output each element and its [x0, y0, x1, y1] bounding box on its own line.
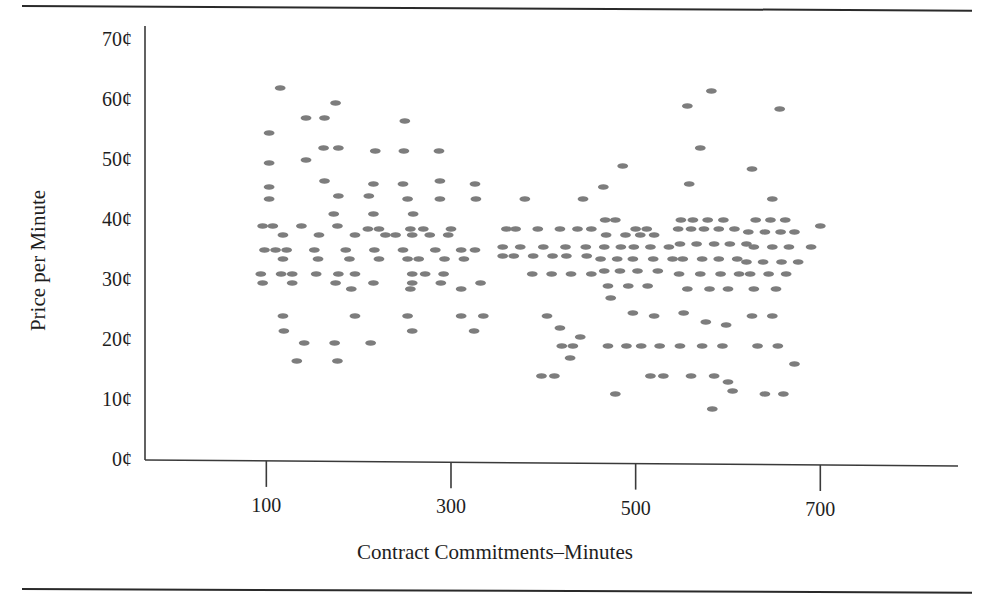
data-point: [642, 283, 653, 289]
data-point: [420, 271, 431, 277]
data-point: [314, 232, 325, 238]
data-point: [346, 286, 357, 292]
data-point: [727, 388, 738, 394]
data-point: [767, 196, 778, 202]
data-point: [402, 313, 413, 319]
data-point: [632, 268, 643, 274]
data-point: [704, 286, 715, 292]
data-point: [328, 211, 339, 217]
data-point: [424, 232, 435, 238]
data-point: [695, 271, 706, 277]
data-point: [301, 157, 312, 163]
data-point: [682, 103, 693, 109]
data-point: [697, 343, 708, 349]
data-point: [780, 217, 791, 223]
y-axis-title: Price per Minute: [26, 181, 51, 341]
data-point: [435, 196, 446, 202]
data-point: [299, 340, 310, 346]
data-point: [675, 241, 686, 247]
data-point: [789, 229, 800, 235]
data-point: [538, 244, 549, 250]
data-point: [350, 232, 361, 238]
data-point: [309, 247, 320, 253]
data-point: [291, 358, 302, 364]
data-point: [402, 196, 413, 202]
data-point: [778, 391, 789, 397]
data-point: [470, 181, 481, 187]
data-point: [333, 145, 344, 151]
data-point: [510, 226, 521, 232]
y-tick-label: 70¢: [28, 29, 132, 49]
data-point: [319, 115, 330, 121]
data-point: [615, 244, 626, 250]
data-point: [287, 271, 298, 277]
data-point: [446, 226, 457, 232]
data-point: [649, 232, 660, 238]
data-point: [760, 391, 771, 397]
data-point: [706, 88, 717, 94]
data-point: [713, 256, 724, 262]
data-point: [313, 256, 324, 262]
data-point: [715, 271, 726, 277]
data-point: [682, 286, 693, 292]
data-point: [723, 379, 734, 385]
data-point: [257, 223, 268, 229]
data-point: [673, 226, 684, 232]
data-point: [443, 232, 454, 238]
data-point: [319, 178, 330, 184]
data-point: [648, 256, 659, 262]
data-point: [691, 241, 702, 247]
data-point: [350, 313, 361, 319]
data-point: [257, 280, 268, 286]
data-point: [709, 373, 720, 379]
data-point: [752, 343, 763, 349]
data-point: [763, 271, 774, 277]
data-point: [686, 226, 697, 232]
data-point: [344, 256, 355, 262]
data-point: [456, 313, 467, 319]
data-point: [278, 256, 289, 262]
data-point: [572, 226, 583, 232]
data-point: [519, 196, 530, 202]
data-point: [663, 244, 674, 250]
data-point: [301, 115, 312, 121]
x-tick-label: 100: [226, 495, 306, 515]
data-point: [255, 271, 266, 277]
data-point: [532, 226, 543, 232]
data-point: [369, 247, 380, 253]
data-point: [758, 259, 769, 265]
data-point: [475, 280, 486, 286]
data-point: [781, 271, 792, 277]
data-point: [435, 178, 446, 184]
data-point: [598, 184, 609, 190]
data-point: [478, 313, 489, 319]
data-point: [264, 160, 275, 166]
data-point: [368, 211, 379, 217]
data-point: [775, 229, 786, 235]
data-point: [407, 232, 418, 238]
data-point: [527, 271, 538, 277]
data-point: [330, 280, 341, 286]
data-point: [549, 373, 560, 379]
data-point: [765, 217, 776, 223]
data-point: [658, 373, 669, 379]
x-tick-label: 700: [780, 499, 860, 519]
data-point: [702, 217, 713, 223]
data-point: [561, 253, 572, 259]
data-point: [675, 343, 686, 349]
data-point: [610, 391, 621, 397]
data-point: [674, 271, 685, 277]
data-point: [340, 247, 351, 253]
data-point: [333, 193, 344, 199]
data-point: [459, 256, 470, 262]
data-point: [793, 259, 804, 265]
data-point: [407, 271, 418, 277]
data-point: [718, 217, 729, 223]
data-point: [567, 343, 578, 349]
data-point: [684, 181, 695, 187]
data-point: [439, 256, 450, 262]
data-point: [399, 148, 410, 154]
data-point: [278, 313, 289, 319]
data-point: [264, 196, 275, 202]
data-point: [332, 223, 343, 229]
